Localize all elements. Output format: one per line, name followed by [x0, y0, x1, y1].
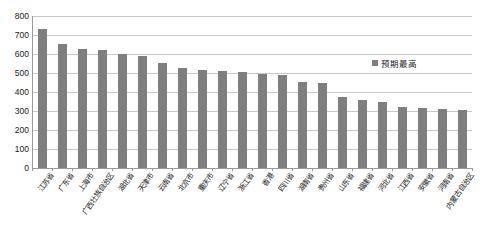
x-axis-category-label: 福建省 [355, 170, 376, 194]
chart-legend: 预期最高 [372, 57, 417, 69]
bar [358, 100, 367, 168]
x-axis-category-label: 辽宁省 [215, 170, 236, 194]
bar [318, 83, 327, 169]
y-axis-tick-label: 500 [1, 69, 29, 77]
legend-entry-label: 预期最高 [381, 57, 417, 69]
x-axis-category-label: 安徽省 [415, 170, 436, 194]
x-axis-category-label: 云南省 [155, 170, 176, 194]
bar [58, 44, 67, 168]
x-axis-category-label: 湖南省 [295, 170, 316, 194]
bar [158, 63, 167, 168]
bar [138, 56, 147, 168]
bar-chart: 8007006005004003002001000 江苏省广东省上海市广西壮族自… [0, 0, 481, 234]
x-axis-category-label: 浙江省 [235, 170, 256, 194]
y-axis-tick-label: 200 [1, 126, 29, 134]
x-axis-category-label: 湖北省 [115, 170, 136, 194]
x-axis-category-label: 天津市 [135, 170, 156, 194]
y-axis-tick-labels: 8007006005004003002001000 [0, 16, 29, 169]
bar [218, 71, 227, 168]
y-axis-tick-label: 700 [1, 31, 29, 39]
bar [78, 49, 87, 168]
x-axis-category-label: 山东省 [335, 170, 356, 194]
bar [458, 110, 467, 168]
bar [418, 108, 427, 168]
bar [398, 107, 407, 168]
y-axis-tick-label: 800 [1, 12, 29, 20]
x-axis-tick-mark [472, 168, 473, 171]
bar [198, 70, 207, 168]
x-axis-category-label: 香港 [259, 170, 276, 188]
bar [338, 97, 347, 168]
x-axis-category-label: 北京市 [175, 170, 196, 194]
y-axis-tick-label: 400 [1, 88, 29, 96]
y-axis-tick-label: 0 [1, 164, 29, 172]
x-axis-category-label: 广东省 [55, 170, 76, 194]
bar [298, 82, 307, 168]
y-axis-tick-label: 100 [1, 145, 29, 153]
x-axis-category-label: 重庆市 [195, 170, 216, 194]
bar [178, 68, 187, 168]
bar [118, 54, 127, 168]
y-axis-tick-label: 600 [1, 50, 29, 58]
x-axis-category-label: 河北省 [375, 170, 396, 194]
bar-series-group [32, 16, 472, 168]
y-axis-tick-label: 300 [1, 107, 29, 115]
bar [238, 72, 247, 168]
bar [438, 109, 447, 168]
bar [278, 75, 287, 168]
x-axis-category-label: 贵州省 [315, 170, 336, 194]
bar [258, 74, 267, 168]
bar [378, 102, 387, 168]
x-axis-category-labels: 江苏省广东省上海市广西壮族自治区湖北省天津市云南省北京市重庆市辽宁省浙江省香港四… [32, 170, 472, 234]
x-axis-category-label: 江西省 [395, 170, 416, 194]
x-axis-category-label: 江苏省 [35, 170, 56, 194]
x-axis-category-label: 四川省 [275, 170, 296, 194]
bar [98, 50, 107, 168]
legend-swatch-icon [372, 60, 378, 66]
bar [38, 29, 47, 168]
